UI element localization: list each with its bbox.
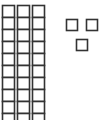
rod-unit-cell (33, 18, 45, 30)
tens-rod (3, 6, 15, 121)
rod-unit-cell (3, 42, 15, 54)
unit-cube (87, 20, 98, 31)
rod-unit-cell (18, 102, 30, 114)
rod-unit-cell (33, 42, 45, 54)
rod-unit-cell (18, 66, 30, 78)
rod-unit-cell (3, 78, 15, 90)
rod-unit-cell (18, 114, 30, 121)
rod-unit-cell (18, 6, 30, 18)
rod-unit-cell (33, 54, 45, 66)
rod-unit-cell (18, 78, 30, 90)
rod-unit-cell (18, 18, 30, 30)
rod-unit-cell (18, 42, 30, 54)
unit-cube (67, 20, 78, 31)
rod-unit-cell (33, 30, 45, 42)
rod-unit-cell (3, 6, 15, 18)
rod-unit-cell (33, 66, 45, 78)
rod-unit-cell (18, 90, 30, 102)
rod-unit-cell (33, 102, 45, 114)
rod-unit-cell (18, 30, 30, 42)
rod-unit-cell (33, 78, 45, 90)
rod-unit-cell (3, 90, 15, 102)
rod-unit-cell (18, 54, 30, 66)
rod-unit-cell (33, 114, 45, 121)
rod-unit-cell (33, 90, 45, 102)
unit-cubes (67, 20, 98, 51)
rod-unit-cell (3, 114, 15, 121)
unit-cube (77, 40, 88, 51)
rod-unit-cell (3, 66, 15, 78)
tens-rod (18, 6, 30, 121)
rod-unit-cell (3, 18, 15, 30)
rod-unit-cell (3, 102, 15, 114)
tens-rod (33, 6, 45, 121)
rod-unit-cell (33, 6, 45, 18)
rod-unit-cell (3, 54, 15, 66)
rod-unit-cell (3, 30, 15, 42)
base-ten-blocks-diagram (0, 0, 101, 120)
tens-rods (3, 6, 45, 121)
